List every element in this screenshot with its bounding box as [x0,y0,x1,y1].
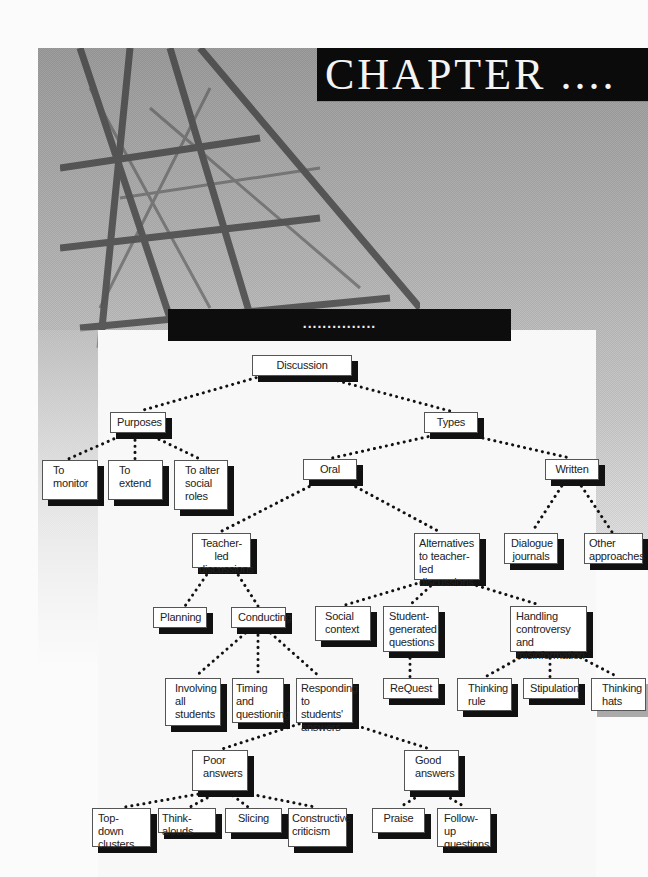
node-to-monitor: To monitor [42,460,98,500]
node-discussion: Discussion [252,355,352,376]
node-student-generated-questions: Student-generated questions [383,606,439,652]
node-slicing: Slicing [225,808,282,833]
node-dialogue-journals: Dialogue journals [504,533,558,564]
node-constructive-criticism: Constructive criticism [288,808,347,847]
node-to-extend: To extend [108,460,163,500]
node-conducting: Conducting [231,607,286,628]
node-responding-to-answers: Responding to students' answers [296,678,353,723]
node-purposes: Purposes [110,412,166,433]
node-praise: Praise [372,808,425,833]
node-handling-controversy: Handling controversy and misinformation [510,606,587,652]
node-teacher-led-discussions: Teacher-led discussions [192,533,251,568]
node-involving-all-students: Involving all students [165,678,221,726]
node-types: Types [424,412,478,433]
node-other-approaches: Other approaches [584,533,643,564]
node-planning: Planning [153,607,207,628]
node-to-alter-social-roles: To alter social roles [174,460,228,510]
node-social-context: Social context [315,606,371,641]
node-written: Written [545,459,599,480]
node-oral: Oral [303,459,357,480]
node-alternatives: Alternatives to teacher-led discussions [414,533,480,580]
connector-lines [0,0,648,877]
node-request: ReQuest [383,678,439,699]
node-stipulation: Stipulation [523,678,579,699]
node-top-down-clusters: Top-down clusters [92,808,151,847]
node-think-alouds: Think-alouds [158,808,216,833]
node-thinking-hats: Thinking hats [591,678,646,711]
node-timing-and-questioning: Timing and questioning [232,678,284,723]
node-poor-answers: Poor answers [192,750,248,791]
node-good-answers: Good answers [404,750,459,791]
node-thinking-rule: Thinking rule [457,678,512,711]
node-follow-up-questions: Follow-up questions [437,808,491,847]
